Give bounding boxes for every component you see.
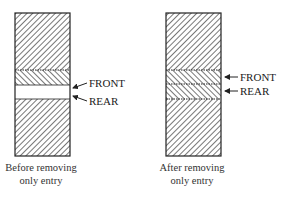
after-rear-segment xyxy=(166,84,221,99)
before-top-occupied-segment xyxy=(15,13,70,70)
before-front-arrow-icon xyxy=(73,83,87,88)
before-queue-array xyxy=(15,13,70,156)
before-bottom-occupied-segment xyxy=(15,99,70,156)
after-caption: After removing only entry xyxy=(137,161,247,187)
after-queue-array xyxy=(166,13,221,156)
after-rear-label: REAR xyxy=(240,85,270,97)
before-entry-segment xyxy=(15,70,70,85)
after-bottom-occupied-segment xyxy=(166,99,221,156)
after-top-occupied-segment xyxy=(166,13,221,70)
before-rear-arrow-icon xyxy=(73,96,87,101)
after-rear-pointer: REAR xyxy=(225,85,270,97)
after-front-label: FRONT xyxy=(240,71,276,83)
before-front-label: FRONT xyxy=(89,77,125,89)
after-caption-line-2: only entry xyxy=(137,174,247,187)
before-rear-label: REAR xyxy=(89,95,119,107)
after-front-pointer: FRONT xyxy=(225,71,276,83)
after-front-segment xyxy=(166,70,221,84)
before-caption: Before removing only entry xyxy=(0,161,96,187)
before-caption-line-1: Before removing xyxy=(0,161,96,174)
before-rear-pointer: REAR xyxy=(73,95,119,107)
before-caption-line-2: only entry xyxy=(0,174,96,187)
after-caption-line-1: After removing xyxy=(137,161,247,174)
before-empty-segment xyxy=(15,85,70,99)
before-front-pointer: FRONT xyxy=(73,77,125,89)
